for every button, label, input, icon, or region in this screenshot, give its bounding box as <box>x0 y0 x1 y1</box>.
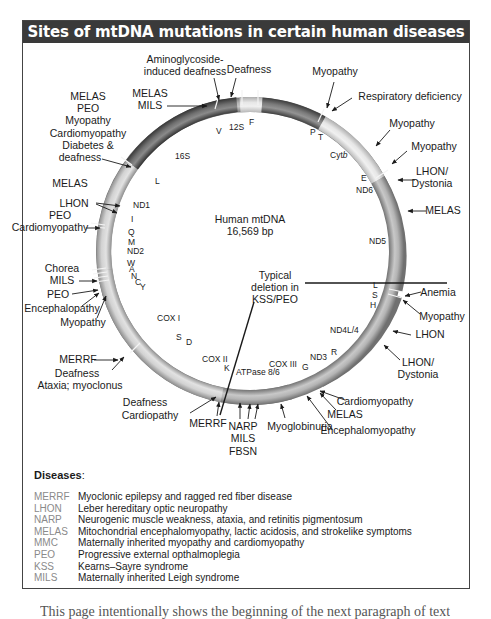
gene-s2: S <box>372 290 378 300</box>
annot-deaf-ataxia-1: Deafness <box>55 367 99 379</box>
annot-narp: NARP <box>228 420 257 432</box>
annot-lhon-dystonia-br-2: Dystonia <box>398 368 439 380</box>
annot-melas-right: MELAS <box>425 204 461 216</box>
annot-myopathy-tr1: Myopathy <box>389 117 435 129</box>
gene-g: G <box>302 362 309 372</box>
gene-nd3: ND3 <box>310 352 327 362</box>
annot-merrf-bottom: MERRF <box>189 417 226 429</box>
ring-segment-atpase <box>222 392 290 398</box>
annot-chorea: Chorea <box>45 262 80 274</box>
legend-row: MILSMaternally inherited Leigh syndrome <box>34 572 464 584</box>
gene-k: K <box>224 363 230 373</box>
deletion-label-1: Typical <box>259 269 292 281</box>
annot-lhon-dystonia-tr-2: Dystonia <box>412 177 453 189</box>
annot-cardiomyopathy-br: Cardiomyopathy <box>337 395 414 407</box>
annot-melas-mils-1: MELAS <box>132 87 168 99</box>
legend-row: MERRFMyoclonic epilepsy and ragged red f… <box>34 491 464 503</box>
gene-h: H <box>370 300 376 310</box>
annot-left-block-1: MELAS <box>70 90 106 102</box>
legend-row: MMCMaternally inherited myopathy and car… <box>34 537 464 549</box>
annot-merrf-left: MERRF <box>59 353 96 365</box>
disease-legend: Diseases: MERRFMyoclonic epilepsy and ra… <box>34 469 464 584</box>
deletion-label-3: KSS/PEO <box>252 293 298 305</box>
gene-e: E <box>361 173 367 183</box>
gene-nd2: ND2 <box>127 246 144 256</box>
gene-cox2: COX II <box>202 354 228 364</box>
gene-q: Q <box>128 227 135 237</box>
annot-lhon-dystonia-tr-1: LHON/ <box>416 165 448 177</box>
ring-segment-nd4 <box>320 295 395 380</box>
gene-nd1: ND1 <box>133 200 150 210</box>
annot-myopathy-right: Myopathy <box>419 310 465 322</box>
annot-deaf-cardio-2: Cardiopathy <box>122 409 179 421</box>
gene-l2: L <box>373 280 378 290</box>
gene-p: P <box>310 127 316 137</box>
annot-lhon-right: LHON <box>415 328 444 340</box>
ring-segment-cox <box>105 270 222 395</box>
legend-row: LHONLeber hereditary optic neuropathy <box>34 503 464 515</box>
gene-t: T <box>318 132 323 142</box>
annot-mils-left: MILS <box>50 274 75 286</box>
gene-labels: V 12S F P T Cytb E ND6 ND5 L S H ND4L/4 … <box>127 117 386 377</box>
legend-row: KSSKearns–Sayre syndrome <box>34 561 464 573</box>
legend-row: PEOProgressive external opthalmoplegia <box>34 549 464 561</box>
gene-w: W <box>127 258 135 268</box>
cut-off-body-text: This page intentionally shows the beginn… <box>40 604 450 619</box>
annot-fbsn: FBSN <box>229 445 257 457</box>
annot-anemia: Anemia <box>420 286 456 298</box>
annot-myopathy-left: Myopathy <box>60 316 106 328</box>
gene-16s: 16S <box>175 151 190 161</box>
gene-i: I <box>131 214 133 224</box>
gene-atpase: ATPase 8/6 <box>236 367 280 377</box>
annot-melas-mils-2: MILS <box>138 99 163 111</box>
annot-peo-left-2: PEO <box>47 288 69 300</box>
annot-myopathy-tr2: Myopathy <box>411 140 457 152</box>
annot-melas-bottom: MELAS <box>327 408 363 420</box>
gene-r: R <box>331 347 337 357</box>
center-title: Human mtDNA <box>215 213 286 225</box>
ring-segment-top <box>262 105 322 123</box>
gene-nd5: ND5 <box>369 236 386 246</box>
annot-left-block-5: Diabetes & <box>62 139 113 151</box>
annot-encephalomyopathy: Encephalomyopathy <box>320 424 416 436</box>
annot-left-block-2: PEO <box>77 102 99 114</box>
gene-s1: S <box>176 332 182 342</box>
annot-lhon-dystonia-br-1: LHON/ <box>402 356 434 368</box>
annot-melas-left: MELAS <box>52 177 88 189</box>
gene-nd4l-4: ND4L/4 <box>330 325 359 335</box>
mtdna-ring <box>91 90 403 398</box>
ring-segment-f <box>240 104 262 105</box>
annot-respiratory-deficiency: Respiratory deficiency <box>358 90 462 102</box>
gene-12s: 12S <box>229 122 244 132</box>
mtdna-diagram: Human mtDNA 16,569 bp Typical deletion i… <box>0 0 491 470</box>
annot-left-block-3: Myopathy <box>65 114 111 126</box>
annot-mils-bottom: MILS <box>231 432 256 444</box>
legend-row: NARPNeurogenic muscle weakness, ataxia, … <box>34 514 464 526</box>
annot-left-block-4: Cardiomyopathy <box>50 127 127 139</box>
gene-d: D <box>186 337 192 347</box>
gene-l1: L <box>155 176 160 186</box>
gene-cox1: COX I <box>157 313 180 323</box>
legend-row: MELASMitochondrial encephalomyopathy, la… <box>34 526 464 538</box>
annot-left-block-6: deafness <box>59 151 102 163</box>
gene-nd6: ND6 <box>356 185 373 195</box>
annot-lhon-left: LHON <box>59 197 88 209</box>
annot-cardiomyopathy-left: Cardiomyopathy <box>12 221 89 233</box>
gene-m: M <box>128 237 135 247</box>
gene-v: V <box>216 126 222 136</box>
annot-deaf-ataxia-2: Ataxia; myoclonus <box>37 379 122 391</box>
annot-myopathy-top: Myopathy <box>312 65 358 77</box>
annot-deaf-cardio-1: Deafness <box>123 396 167 408</box>
gene-f: F <box>249 117 254 127</box>
annot-deafness-top: Deafness <box>227 63 271 75</box>
legend-title: Diseases: <box>34 469 464 481</box>
annot-aminoglycoside-1: Aminoglycoside- <box>146 53 224 65</box>
gene-cytb: Cytb <box>330 150 348 160</box>
annot-aminoglycoside-2: induced deafness <box>144 65 226 77</box>
annot-encephalopathy-left: Encephalopathy <box>24 302 100 314</box>
center-size: 16,569 bp <box>227 225 274 237</box>
deletion-label-2: deletion in <box>251 281 299 293</box>
annot-peo-left: PEO <box>49 209 71 221</box>
